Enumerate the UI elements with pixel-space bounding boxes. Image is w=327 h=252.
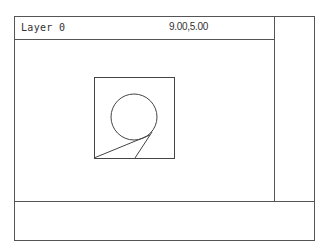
drawing-entities [0, 0, 327, 252]
rectangle-entity[interactable] [95, 78, 175, 159]
line-entity[interactable] [135, 132, 152, 158]
circle-entity[interactable] [111, 94, 157, 140]
line-entity[interactable] [94, 135, 150, 158]
